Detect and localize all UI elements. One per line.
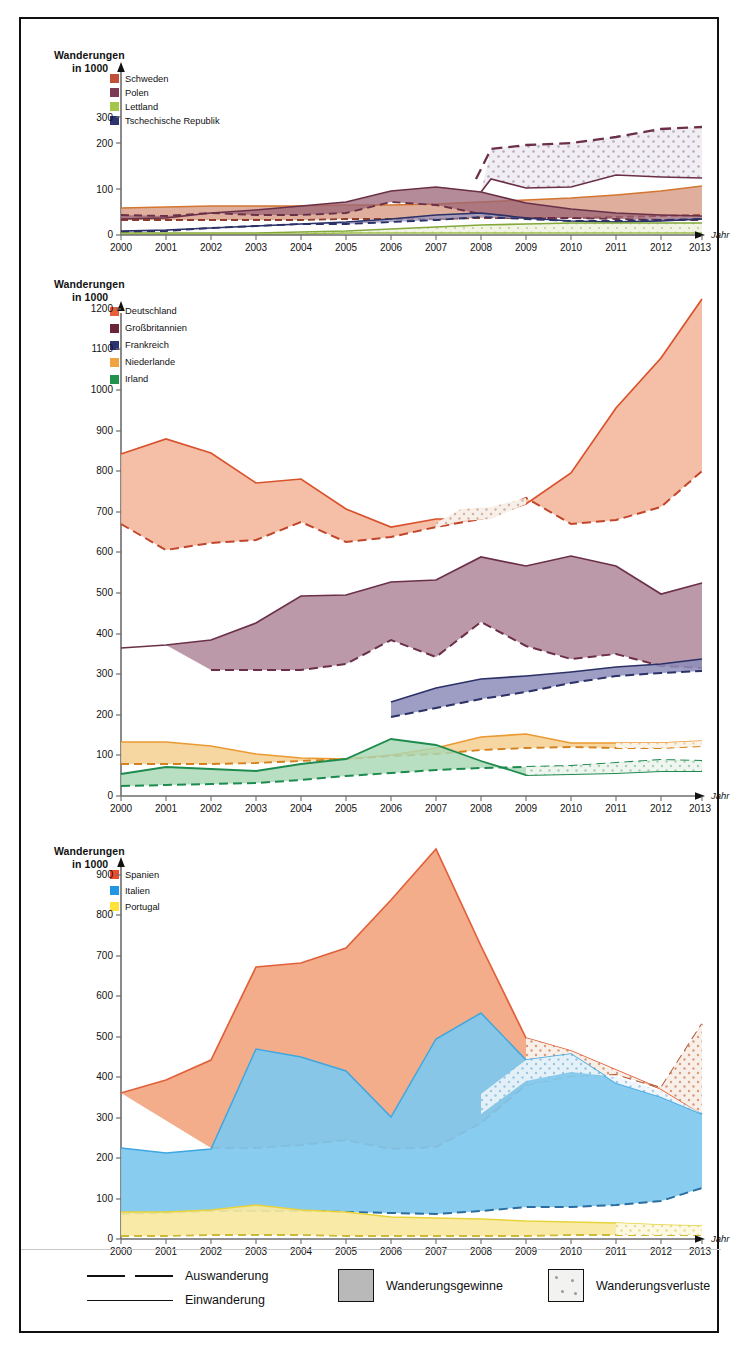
y-tick-label: 800 xyxy=(96,909,113,920)
legend-label-einwanderung: Einwanderung xyxy=(185,1293,265,1307)
figure-frame: Wanderungen in 1000 Schweden Polen Lettl… xyxy=(19,17,719,1333)
y-tick-label: 400 xyxy=(96,1071,113,1082)
x-tick-label: 2006 xyxy=(380,803,403,814)
x-axis-label-top: Jahr xyxy=(710,229,730,240)
y-tick-label: 900 xyxy=(96,869,113,880)
series-line-portugal-aus xyxy=(121,1235,702,1236)
panel-top: Wanderungen in 1000 Schweden Polen Lettl… xyxy=(21,19,721,241)
y-tick-label: 200 xyxy=(96,709,113,720)
x-tick-label: 2002 xyxy=(200,803,223,814)
y-tick-label: 100 xyxy=(96,749,113,760)
x-tick-label: 2010 xyxy=(560,803,583,814)
x-axis-arrow-bottom xyxy=(695,1235,705,1243)
y-axis-arrow-top xyxy=(117,62,125,72)
x-tick-label: 2011 xyxy=(605,803,627,814)
y-tick-label: 1000 xyxy=(91,384,114,395)
panel-bottom: Wanderungen in 1000 Spanien Italien Port… xyxy=(21,819,721,1259)
series-area-niederlande-verluste xyxy=(616,741,702,748)
x-axis-label-bottom: Jahr xyxy=(710,1233,730,1244)
y-tick-label: 600 xyxy=(96,546,113,557)
solid-line-sample xyxy=(87,1300,173,1301)
legend-wanderungsverluste: Wanderungsverluste xyxy=(548,1269,710,1302)
y-tick-label: 300 xyxy=(96,1112,113,1123)
y-tick-label: 0 xyxy=(107,790,113,801)
y-tick-label: 500 xyxy=(96,587,113,598)
legend-label-auswanderung: Auswanderung xyxy=(185,1269,268,1283)
y-tick-label: 100 xyxy=(96,184,113,195)
panel-middle: Wanderungen in 1000 Deutschland Großbrit… xyxy=(21,251,721,811)
x-tick-label: 2001 xyxy=(155,803,178,814)
y-tick-label: 200 xyxy=(96,138,113,149)
y-tick-label: 200 xyxy=(96,1152,113,1163)
y-tick-label: 1200 xyxy=(91,303,114,314)
x-axis-label-middle: Jahr xyxy=(710,790,730,801)
panel-middle-plot: 0 100 200 300 400 500 600 700 800 900 10… xyxy=(21,251,721,811)
series-area-deutschland-verluste2 xyxy=(436,498,526,527)
y-tick-label: 100 xyxy=(96,1193,113,1204)
y-axis-arrow-bottom xyxy=(117,857,125,867)
y-tick-label: 0 xyxy=(107,229,113,240)
x-tick-label: 2004 xyxy=(290,803,313,814)
legend-auswanderung: Auswanderung xyxy=(87,1269,268,1283)
panel-bottom-plot: 0 100 200 300 400 500 600 700 800 900 xyxy=(21,819,721,1259)
x-axis-arrow-middle xyxy=(695,792,705,800)
dashed-line-sample xyxy=(87,1275,173,1277)
y-ticks-bottom: 0 100 200 300 400 500 600 700 800 900 xyxy=(96,869,121,1244)
y-ticks-middle: 0 100 200 300 400 500 600 700 800 900 10… xyxy=(91,303,121,801)
x-tick-label: 2009 xyxy=(515,803,538,814)
legend-einwanderung: Einwanderung xyxy=(87,1293,265,1307)
y-tick-label: 300 xyxy=(96,112,113,123)
y-tick-label: 800 xyxy=(96,465,113,476)
x-tick-label: 2003 xyxy=(245,803,268,814)
x-tick-label: 2013 xyxy=(689,803,712,814)
y-tick-label: 400 xyxy=(96,628,113,639)
gain-swatch xyxy=(338,1269,374,1302)
y-tick-label: 700 xyxy=(96,506,113,517)
x-tick-label: 2005 xyxy=(335,803,358,814)
series-area-deutschland xyxy=(121,299,702,550)
y-tick-label: 700 xyxy=(96,950,113,961)
x-ticks-middle: 2000 2001 2002 2003 2004 2005 2006 2007 … xyxy=(110,796,712,814)
legend-wanderungsgewinne: Wanderungsgewinne xyxy=(338,1269,503,1302)
legend-label-wanderungsverluste: Wanderungsverluste xyxy=(596,1279,710,1293)
y-ticks-top: 0 100 200 300 xyxy=(96,112,121,240)
panel-top-plot: 0 100 200 300 xyxy=(21,19,721,241)
y-tick-label: 600 xyxy=(96,990,113,1001)
y-tick-label: 900 xyxy=(96,425,113,436)
y-tick-label: 300 xyxy=(96,668,113,679)
legend-divider-top xyxy=(21,1249,721,1250)
x-tick-label: 2008 xyxy=(470,803,493,814)
x-tick-label: 2000 xyxy=(110,803,133,814)
loss-swatch xyxy=(548,1269,584,1302)
figure-bottom-legend: Auswanderung Einwanderung Wanderungsgewi… xyxy=(21,1247,721,1325)
x-tick-label: 2007 xyxy=(425,803,448,814)
y-tick-label: 0 xyxy=(107,1233,113,1244)
y-tick-label: 1100 xyxy=(91,343,113,354)
x-tick-label: 2012 xyxy=(650,803,673,814)
y-tick-label: 500 xyxy=(96,1031,113,1042)
legend-label-wanderungsgewinne: Wanderungsgewinne xyxy=(386,1279,503,1293)
series-area-grossbritannien xyxy=(121,556,702,670)
